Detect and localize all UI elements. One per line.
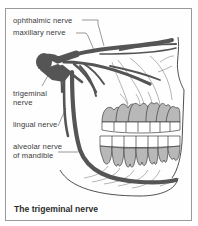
label-alveolar-nerve-line2: of mandible [13,151,53,160]
label-maxillary-nerve: maxillary nerve [13,28,66,37]
label-trigeminal-nerve-line2: nerve [13,98,33,107]
lower-teeth [100,136,180,167]
label-trigeminal-nerve-line1: trigeminal [13,89,47,98]
label-alveolar-nerve-line1: alveolar nerve [13,142,62,151]
label-lingual-nerve: lingual nerve [13,120,57,129]
figure-caption: The trigeminal nerve [14,204,98,214]
label-ophthalmic-nerve: ophthalmic nerve [13,16,72,25]
upper-teeth [102,103,180,133]
